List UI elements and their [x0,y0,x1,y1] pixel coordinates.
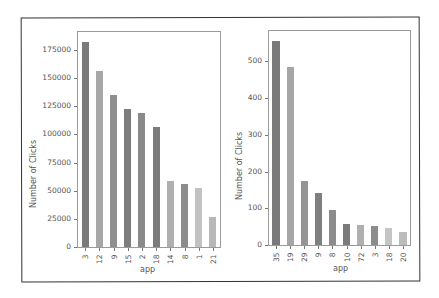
y-tick-mark [74,134,77,135]
y-tick-mark [265,98,268,99]
x-tick-label: 10 [342,253,351,269]
x-tick-label: 14 [166,255,175,271]
plot-area-left [77,31,221,248]
bar-3 [371,226,378,245]
x-tick-label: 29 [300,253,309,269]
y-tick-label: 125000 [21,102,71,110]
x-tick-label: 8 [180,255,189,271]
y-tick-label: 400 [212,94,262,102]
y-tick-mark [74,191,77,192]
y-tick-mark [265,245,268,246]
x-tick-label: 35 [272,253,281,269]
bar-72 [357,225,364,245]
bar-18 [385,228,392,245]
x-tick-label: 9 [109,255,118,271]
y-tick-label: 150000 [21,74,71,82]
y-tick-label: 75000 [21,159,71,167]
bar-8 [181,184,188,247]
x-tick-mark [403,246,404,249]
x-tick-mark [375,246,376,249]
y-tick-mark [74,163,77,164]
y-tick-label: 300 [212,131,262,139]
x-tick-mark [347,246,348,249]
bar-20 [399,232,406,245]
x-tick-mark [142,248,143,251]
bar-12 [96,71,103,247]
x-tick-label: 19 [286,253,295,269]
y-tick-label: 500 [212,57,262,65]
x-tick-label: 3 [370,253,379,269]
y-tick-mark [265,172,268,173]
x-tick-label: 18 [384,253,393,269]
bar-29 [301,181,308,245]
y-tick-label: 175000 [21,46,71,54]
bar-8 [329,210,336,245]
x-tick-mark [361,246,362,249]
x-tick-mark [290,246,291,249]
bar-18 [153,127,160,247]
x-tick-label: 3 [81,255,90,271]
x-tick-label: 9 [314,253,323,269]
y-tick-mark [74,219,77,220]
x-tick-mark [99,248,100,251]
y-axis-label-left: Number of Clicks [29,140,38,208]
x-tick-mark [389,246,390,249]
plot-area-right [268,30,411,246]
y-axis-label-right: Number of Clicks [235,132,244,200]
y-tick-mark [265,208,268,209]
x-tick-mark [332,246,333,249]
x-tick-label: 20 [398,253,407,269]
x-tick-mark [85,248,86,251]
bar-14 [167,181,174,247]
bar-1 [195,188,202,247]
y-tick-label: 50000 [21,187,71,195]
x-tick-label: 18 [152,255,161,271]
x-tick-label: 12 [95,255,104,271]
x-tick-mark [318,246,319,249]
x-tick-mark [128,248,129,251]
x-tick-label: 72 [356,253,365,269]
y-tick-mark [265,135,268,136]
bar-9 [110,95,117,247]
bar-2 [138,113,145,247]
x-tick-mark [304,246,305,249]
y-tick-label: 0 [212,241,262,249]
x-tick-mark [199,248,200,251]
x-tick-mark [185,248,186,251]
bar-19 [287,67,294,245]
y-tick-label: 200 [212,168,262,176]
x-tick-label: 21 [208,255,217,271]
y-tick-mark [74,106,77,107]
y-tick-mark [74,78,77,79]
y-tick-label: 100000 [21,130,71,138]
x-tick-label: 2 [137,255,146,271]
x-tick-mark [170,248,171,251]
bar-35 [272,41,279,245]
y-tick-mark [74,247,77,248]
bar-15 [124,109,131,247]
x-tick-label: 8 [328,253,337,269]
y-tick-mark [265,61,268,62]
x-tick-label: 1 [194,255,203,271]
x-tick-mark [276,246,277,249]
x-tick-label: 15 [123,255,132,271]
y-tick-label: 100 [212,204,262,212]
bar-3 [82,42,89,247]
bar-10 [343,224,350,245]
x-tick-mark [156,248,157,251]
bar-9 [315,193,322,245]
y-tick-label: 25000 [21,215,71,223]
y-tick-mark [74,50,77,51]
x-tick-mark [114,248,115,251]
y-tick-label: 0 [21,243,71,251]
